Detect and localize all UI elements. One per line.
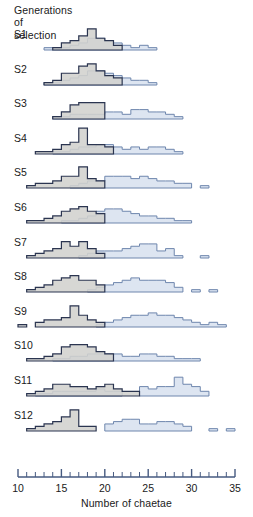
series-grey bbox=[27, 207, 105, 223]
series-grey bbox=[27, 384, 140, 396]
series-grey bbox=[53, 103, 105, 119]
series-grey bbox=[27, 345, 114, 361]
axis-tick-label-10: 10 bbox=[3, 482, 33, 494]
series-blue bbox=[87, 278, 217, 292]
series-grey bbox=[53, 29, 122, 50]
axis-tick-label-35: 35 bbox=[220, 482, 250, 494]
series-blue bbox=[96, 313, 226, 327]
series-grey bbox=[27, 167, 105, 188]
series-grey bbox=[18, 306, 105, 327]
series-blue bbox=[105, 419, 235, 431]
series-grey bbox=[35, 128, 113, 154]
axis-tick-label-30: 30 bbox=[177, 482, 207, 494]
axis-tick-label-20: 20 bbox=[90, 482, 120, 494]
chaetae-selection-figure: Generations of selection S1S2S3S4S5S6S7S… bbox=[0, 0, 253, 517]
axis-tick-label-25: 25 bbox=[133, 482, 163, 494]
series-grey bbox=[27, 241, 105, 257]
series-grey bbox=[27, 276, 105, 292]
x-axis-label: Number of chaetae bbox=[0, 497, 253, 509]
axis-tick-label-15: 15 bbox=[46, 482, 76, 494]
histogram-row-s12 bbox=[0, 397, 253, 437]
series-grey bbox=[27, 409, 96, 430]
